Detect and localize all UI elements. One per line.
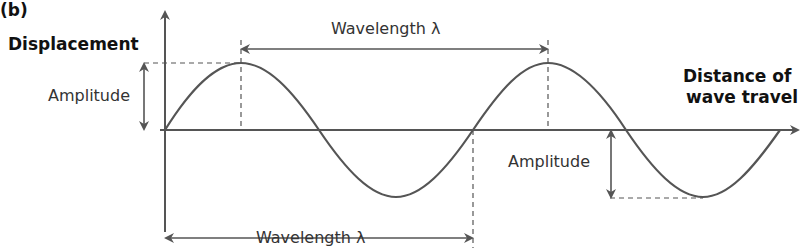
panel-label: (b) — [0, 0, 28, 20]
amplitude-label-bottom: Amplitude — [508, 152, 590, 171]
amplitude-label-top: Amplitude — [48, 86, 130, 105]
x-axis-label-line1: Distance of — [683, 66, 791, 86]
wavelength-label-bottom: Wavelength λ — [256, 228, 365, 247]
x-axis-label-line2: wave travel — [686, 87, 798, 107]
wavelength-label-top: Wavelength λ — [331, 19, 440, 38]
y-axis-label: Displacement — [8, 34, 139, 54]
